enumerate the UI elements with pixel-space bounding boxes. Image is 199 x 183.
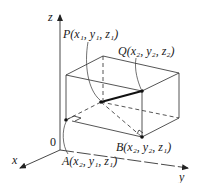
label-a: A(x₂, y₁, z₁) [61, 154, 117, 168]
point-a [64, 118, 68, 122]
label-p: P(x₁, y₁, z₁) [62, 27, 118, 41]
point-b [140, 135, 144, 139]
leader-a [63, 122, 68, 154]
point-p [99, 100, 103, 104]
point-q [140, 89, 144, 93]
leader-p [87, 42, 101, 100]
x-axis-label: x [11, 153, 18, 167]
z-axis-label: z [47, 10, 53, 24]
label-q: Q(x₂, y₂, z₂) [118, 44, 175, 58]
x-axis [20, 150, 60, 168]
leader-q [135, 58, 141, 89]
y-axis-label: y [178, 170, 185, 183]
label-b: B(x₂, y₂, z₁) [116, 140, 171, 154]
origin-label: 0 [50, 135, 56, 149]
diagram-canvas: z x y 0 P(x₁, y₁, z₁) Q(x₂, y₂, z₂) B(x₂… [0, 0, 199, 183]
segment-pq [101, 91, 142, 102]
